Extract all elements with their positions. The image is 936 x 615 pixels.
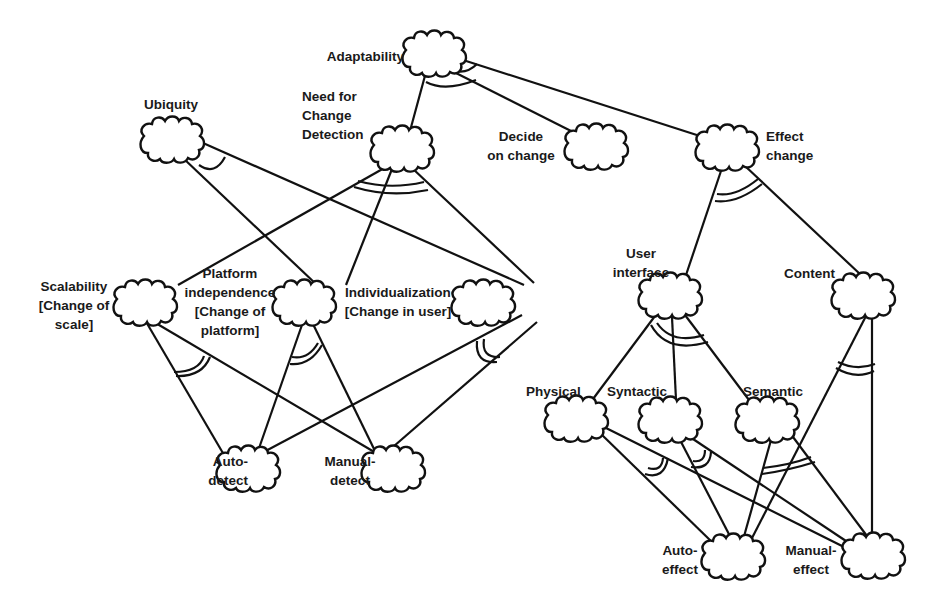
label-line: effect (654, 560, 706, 579)
label-line: interface (606, 263, 676, 282)
label-line: detect (318, 471, 382, 490)
label-line: effect (778, 560, 844, 579)
label-line: Need for (302, 87, 364, 106)
label-line: Manual- (318, 452, 382, 471)
edge-effect-user-interface (686, 168, 722, 275)
edge-semantic-auto-effect (743, 440, 771, 540)
label-line: Auto- (654, 541, 706, 560)
label-line: independence (180, 283, 280, 302)
label-adaptability: Adaptability (308, 47, 404, 66)
cloud-semantic (736, 397, 800, 443)
edge-ui-syntactic (672, 317, 676, 400)
edge-individualization-manual-detect (386, 322, 537, 453)
label-line: platform] (180, 321, 280, 340)
cloud-ubiquity (141, 117, 205, 163)
cloud-decide (565, 124, 629, 170)
label-line: Effect (766, 127, 813, 146)
label-line: Physical (526, 382, 581, 401)
label-auto-effect: Auto- effect (654, 541, 706, 579)
label-line: Syntactic (607, 382, 667, 401)
label-line: change (766, 146, 813, 165)
arc-content-outer (836, 368, 874, 375)
label-syntactic: Syntactic (607, 382, 667, 401)
edge-physical-auto-effect (600, 433, 713, 543)
arc-ubiquity (199, 157, 225, 169)
edge-effect-content (745, 166, 861, 275)
label-individualization: Individualization [Change in user] (340, 283, 456, 321)
edge-adaptability-decide (450, 70, 575, 133)
arc-effect-outer (715, 184, 762, 201)
cloud-syntactic (639, 397, 703, 443)
label-line: [Change of (32, 296, 116, 315)
arc-need-detection-outer (354, 187, 428, 193)
label-line: Change (302, 106, 364, 125)
label-auto-detect: Auto- detect (196, 452, 248, 490)
cloud-platform (273, 280, 337, 326)
cloud-adaptability (403, 31, 467, 77)
edge-adaptability-need-detection (410, 72, 426, 131)
label-decide: Decide on change (478, 127, 564, 165)
label-line: [Change of (180, 302, 280, 321)
arc-adaptability (426, 80, 476, 87)
label-line: Detection (302, 125, 364, 144)
label-line: Decide (478, 127, 564, 146)
label-line: Content (784, 264, 835, 283)
goal-diagram (0, 0, 936, 615)
label-line: Ubiquity (128, 95, 214, 114)
arc-individualization-inner (484, 339, 500, 357)
label-line: Individualization (340, 283, 456, 302)
label-user-interface: User interface (606, 244, 676, 282)
label-ubiquity: Ubiquity (128, 95, 214, 114)
arc-syntactic-inner (693, 450, 705, 461)
edge-semantic-manual-effect (790, 433, 870, 540)
label-line: on change (478, 146, 564, 165)
label-content: Content (784, 264, 835, 283)
arc-physical-outer (645, 458, 668, 475)
label-line: Manual- (778, 541, 844, 560)
label-line: detect (196, 471, 248, 490)
cloud-auto-effect (702, 534, 766, 580)
cloud-effect (696, 125, 760, 171)
arc-need-detection-inner (358, 181, 424, 186)
label-semantic: Semantic (743, 382, 803, 401)
arc-content-inner (838, 362, 875, 367)
edge-need-individualization (412, 168, 534, 283)
label-manual-effect: Manual- effect (778, 541, 844, 579)
label-line: Semantic (743, 382, 803, 401)
label-line: Scalability (32, 277, 116, 296)
label-line: Auto- (196, 452, 248, 471)
label-effect: Effect change (766, 127, 813, 165)
edge-ui-semantic (682, 311, 749, 400)
arc-scalability-outer (176, 357, 210, 376)
label-line: scale] (32, 315, 116, 334)
label-platform: Platform independence [Change of platfor… (180, 264, 280, 340)
label-line: User (606, 244, 676, 263)
label-line: Adaptability (308, 47, 404, 66)
cloud-manual-effect (842, 533, 906, 579)
cloud-scalability (114, 280, 178, 326)
label-line: [Change in user] (340, 302, 456, 321)
label-line: Platform (180, 264, 280, 283)
cloud-content (832, 273, 896, 319)
cloud-physical (545, 396, 609, 442)
cloud-need-detection (371, 126, 435, 172)
label-scalability: Scalability [Change of scale] (32, 277, 116, 334)
label-need-detection: Need for Change Detection (302, 87, 364, 144)
cloud-individualization (452, 280, 516, 326)
arc-physical-inner (648, 458, 663, 469)
label-manual-detect: Manual- detect (318, 452, 382, 490)
label-physical: Physical (526, 382, 581, 401)
